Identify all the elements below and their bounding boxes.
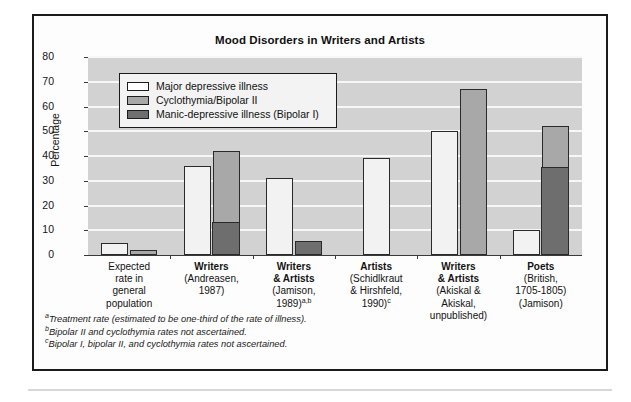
footnotes: aTreatment rate (estimated to be one-thi… [45,313,445,351]
y-tick-mark [84,156,88,157]
page-divider [28,389,612,391]
gridline [88,205,582,207]
gridline [88,229,582,231]
y-tick-mark [84,255,88,256]
y-tick-label: 30 [14,174,54,186]
bar-white [184,166,211,255]
x-tick-mark [335,255,336,259]
legend-item-cyclothymia-bipolar2: Cyclothymia/Bipolar II [127,93,329,107]
figure-frame: Mood Disorders in Writers and Artists Pe… [32,14,608,371]
bar-segment-bipolar1 [212,222,240,256]
y-tick-mark [84,206,88,207]
legend-swatch-cyclothymia-bipolar2-icon [127,96,149,105]
chart-legend: Major depressive illness Cyclothymia/Bip… [119,73,337,128]
gridline [88,130,582,132]
footnote-marker: a,b [302,296,312,303]
legend-item-major-depressive: Major depressive illness [127,79,329,93]
y-tick-mark [84,230,88,231]
gridline [88,155,582,157]
x-category-label: Artists(Schidlkraut& Hirshfeld,1990)c [329,261,423,310]
bar-dark [295,241,322,255]
y-tick-mark [84,57,88,58]
footnote-line: cBipolar I, bipolar II, and cyclothymia … [45,338,445,351]
y-tick-mark [84,107,88,108]
bar-white [363,158,390,255]
y-tick-label: 0 [14,248,54,260]
y-tick-mark [84,82,88,83]
y-tick-label: 50 [14,124,54,136]
legend-swatch-major-depressive-icon [127,82,149,91]
footnote-marker: a [45,312,49,319]
x-tick-mark [170,255,171,259]
bar-gray [213,151,240,255]
footnote-marker: b [45,325,49,332]
x-category-label: Expectedrate ingeneralpopulation [82,261,176,310]
gridline [88,180,582,182]
y-tick-label: 20 [14,199,54,211]
x-tick-mark [417,255,418,259]
bar-white [266,178,293,255]
footnote-line: bBipolar II and cyclothymia rates not as… [45,326,445,339]
bar-white [513,230,540,255]
footnote-marker: c [387,296,391,303]
chart-screenshot: Mood Disorders in Writers and Artists Pe… [0,0,631,402]
bar-gray [460,89,487,255]
legend-label-cyclothymia-bipolar2: Cyclothymia/Bipolar II [156,94,258,106]
footnote-marker: c [45,337,49,344]
y-tick-label: 40 [14,149,54,161]
x-category-label: Writers(Andreasen,1987) [164,261,258,298]
bar-gray [130,250,157,255]
x-tick-mark [500,255,501,259]
y-tick-label: 70 [14,75,54,87]
legend-swatch-bipolar1-icon [127,110,149,119]
chart-title: Mood Disorders in Writers and Artists [34,34,606,46]
bar-white [101,243,128,255]
y-tick-label: 60 [14,100,54,112]
footnote-line: aTreatment rate (estimated to be one-thi… [45,313,445,326]
gridline [88,56,582,58]
x-tick-mark [253,255,254,259]
bar-segment-bipolar1 [541,167,569,255]
x-category-label: Poets(British,1705-1805)(Jamison) [494,261,588,310]
bar-gray [542,126,569,255]
x-category-label: Writers& Artists(Jamison,1989)a,b [247,261,341,310]
y-tick-mark [84,181,88,182]
y-tick-label: 80 [14,50,54,62]
legend-label-major-depressive: Major depressive illness [156,80,268,92]
legend-item-bipolar1: Manic-depressive illness (Bipolar I) [127,107,329,121]
y-tick-label: 10 [14,223,54,235]
legend-label-bipolar1: Manic-depressive illness (Bipolar I) [156,108,319,120]
bar-white [431,131,458,255]
y-tick-mark [84,131,88,132]
